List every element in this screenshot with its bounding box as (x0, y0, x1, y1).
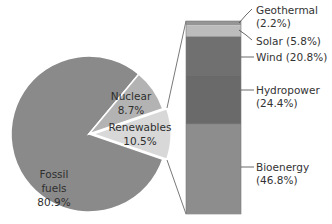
label-renewables-name: Renewables (109, 121, 172, 133)
label-fossil-line2: fuels (41, 182, 66, 194)
label-bioenergy-value: (46.8%) (256, 174, 298, 186)
label-renewables-value: 10.5% (123, 135, 156, 147)
bar-segment-geothermal (186, 21, 241, 25)
label-hydropower-value: (24.4%) (256, 97, 298, 109)
label-geothermal-name: Geothermal (256, 4, 318, 16)
label-geothermal-value: (2.2%) (256, 17, 291, 29)
connector-line-top (167, 21, 186, 108)
bar-labels: Geothermal (2.2%) Solar (5.8%) Wind (20.… (256, 4, 327, 186)
bar-segment-wind (186, 36, 241, 76)
leader-geothermal (239, 9, 252, 23)
energy-mix-chart: Fossil fuels 80.9% Nuclear 8.7% Renewabl… (0, 0, 332, 224)
label-solar: Solar (5.8%) (256, 35, 321, 47)
label-fossil-value: 80.9% (37, 196, 70, 208)
stacked-bar (186, 21, 241, 214)
pie-chart: Fossil fuels 80.9% Nuclear 8.7% Renewabl… (11, 56, 171, 212)
label-nuclear-name: Nuclear (111, 90, 152, 102)
label-nuclear-value: 8.7% (118, 104, 145, 116)
connector-line-bottom (167, 160, 186, 214)
bar-segment-hydropower (186, 77, 241, 124)
bar-segment-bioenergy (186, 124, 241, 214)
label-hydropower-name: Hydropower (256, 84, 320, 96)
label-wind: Wind (20.8%) (256, 51, 327, 63)
label-fossil-line1: Fossil (40, 168, 69, 180)
bar-segment-solar (186, 25, 241, 36)
label-bioenergy-name: Bioenergy (256, 161, 309, 173)
